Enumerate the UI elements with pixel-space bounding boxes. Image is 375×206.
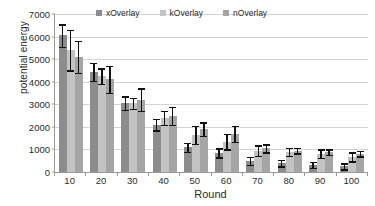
error-bar-cap-upper bbox=[216, 148, 223, 149]
bar-group bbox=[274, 14, 305, 172]
error-bar-cap-lower bbox=[263, 152, 270, 153]
bar[interactable] bbox=[75, 57, 83, 172]
bar[interactable] bbox=[90, 72, 98, 172]
bar-chart: potential energy 01000200030004000500060… bbox=[0, 0, 375, 206]
bar[interactable] bbox=[59, 35, 67, 172]
bar-group bbox=[180, 14, 211, 172]
bar-slot bbox=[231, 14, 239, 172]
bar[interactable] bbox=[121, 103, 129, 172]
error-bar-cap-upper bbox=[286, 148, 293, 149]
bar-slot bbox=[200, 14, 208, 172]
bar-group-bars bbox=[86, 14, 117, 172]
error-bar-cap-upper bbox=[232, 126, 239, 127]
error-bar-cap-upper bbox=[130, 98, 137, 99]
legend-entry[interactable]: kOverlay bbox=[160, 8, 204, 18]
error-bar bbox=[234, 126, 235, 142]
error-bar bbox=[109, 66, 110, 93]
y-axis-tick-label: 2000 bbox=[29, 121, 50, 132]
y-axis-tick-label: 0 bbox=[45, 167, 50, 178]
bar[interactable] bbox=[98, 76, 106, 172]
bar-group bbox=[149, 14, 180, 172]
legend-label: kOverlay bbox=[170, 8, 204, 18]
error-bar-cap-lower bbox=[90, 81, 97, 82]
bar-slot bbox=[161, 14, 169, 172]
bar-slot bbox=[278, 14, 286, 172]
error-bar-cap-lower bbox=[247, 165, 254, 166]
bar-slot bbox=[309, 14, 317, 172]
bar-groups bbox=[55, 14, 368, 172]
y-axis-tick-label: 6000 bbox=[29, 31, 50, 42]
bar-group-bars bbox=[337, 14, 368, 172]
error-bar-cap-upper bbox=[278, 160, 285, 161]
legend-entry[interactable]: nOverlay bbox=[223, 8, 267, 18]
error-bar-cap-lower bbox=[286, 156, 293, 157]
error-bar-cap-upper bbox=[357, 151, 364, 152]
error-bar-cap-upper bbox=[67, 30, 74, 31]
error-bar bbox=[101, 68, 102, 84]
x-axis-title: Round bbox=[54, 188, 367, 200]
error-bar-cap-lower bbox=[357, 156, 364, 157]
bar-group-bars bbox=[118, 14, 149, 172]
bar-slot bbox=[67, 14, 75, 172]
legend-entry[interactable]: xOverlay bbox=[96, 8, 140, 18]
error-bar-cap-lower bbox=[278, 166, 285, 167]
legend-swatch-icon bbox=[223, 10, 229, 16]
error-bar bbox=[141, 88, 142, 111]
x-axis-tick-label: 80 bbox=[273, 175, 304, 186]
error-bar-cap-lower bbox=[224, 149, 231, 150]
bar-slot bbox=[215, 14, 223, 172]
bar-slot bbox=[223, 14, 231, 172]
error-bar-cap-lower bbox=[67, 70, 74, 71]
error-bar-cap-lower bbox=[98, 84, 105, 85]
x-axis-tick-label: 10 bbox=[54, 175, 85, 186]
y-axis-tick-label: 5000 bbox=[29, 54, 50, 65]
error-bar-cap-upper bbox=[161, 111, 168, 112]
bar-group bbox=[118, 14, 149, 172]
bar-slot bbox=[286, 14, 294, 172]
error-bar-cap-upper bbox=[98, 68, 105, 69]
legend-swatch-icon bbox=[96, 10, 102, 16]
error-bar-cap-upper bbox=[341, 163, 348, 164]
error-bar-cap-upper bbox=[349, 152, 356, 153]
error-bar bbox=[203, 122, 204, 136]
error-bar-cap-upper bbox=[263, 144, 270, 145]
bar-slot bbox=[137, 14, 145, 172]
x-axis-tick-label: 70 bbox=[242, 175, 273, 186]
error-bar-cap-upper bbox=[192, 126, 199, 127]
error-bar-cap-lower bbox=[75, 73, 82, 74]
bar-slot bbox=[294, 14, 302, 172]
legend: xOverlaykOverlaynOverlay bbox=[96, 8, 267, 18]
bar-slot bbox=[348, 14, 356, 172]
bar-slot bbox=[184, 14, 192, 172]
x-axis-tick-label: 50 bbox=[179, 175, 210, 186]
bar[interactable] bbox=[153, 125, 161, 172]
error-bar-cap-lower bbox=[318, 158, 325, 159]
x-axis-tick-label: 20 bbox=[85, 175, 116, 186]
bar[interactable] bbox=[129, 103, 137, 172]
error-bar-cap-lower bbox=[184, 152, 191, 153]
bar-group bbox=[211, 14, 242, 172]
error-bar-cap-upper bbox=[326, 149, 333, 150]
error-bar bbox=[125, 96, 126, 110]
legend-swatch-icon bbox=[160, 10, 166, 16]
error-bar-cap-upper bbox=[224, 134, 231, 135]
error-bar-cap-upper bbox=[318, 149, 325, 150]
error-bar-cap-upper bbox=[169, 107, 176, 108]
bar-group bbox=[243, 14, 274, 172]
bar-slot bbox=[106, 14, 114, 172]
error-bar-cap-lower bbox=[138, 111, 145, 112]
error-bar bbox=[78, 41, 79, 73]
error-bar-cap-upper bbox=[153, 119, 160, 120]
error-bar-cap-upper bbox=[184, 143, 191, 144]
bar-slot bbox=[59, 14, 67, 172]
error-bar bbox=[133, 98, 134, 109]
error-bar bbox=[226, 134, 227, 150]
error-bar-cap-upper bbox=[138, 88, 145, 89]
error-bar-cap-lower bbox=[294, 153, 301, 154]
error-bar-cap-upper bbox=[75, 41, 82, 42]
bar-slot bbox=[153, 14, 161, 172]
error-bar bbox=[93, 63, 94, 81]
bar-group-bars bbox=[55, 14, 86, 172]
x-axis-tick-label: 60 bbox=[210, 175, 241, 186]
plot-area bbox=[54, 14, 368, 173]
